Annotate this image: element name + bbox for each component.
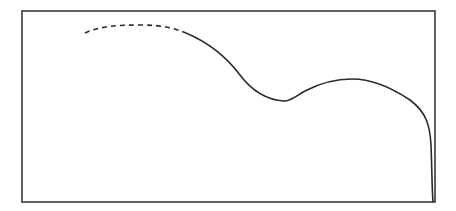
plot-frame [22, 11, 435, 202]
line-diagram [0, 0, 456, 211]
solid-curve-segment [186, 33, 433, 202]
dashed-curve-segment [85, 25, 186, 33]
diagram-canvas [0, 0, 456, 211]
